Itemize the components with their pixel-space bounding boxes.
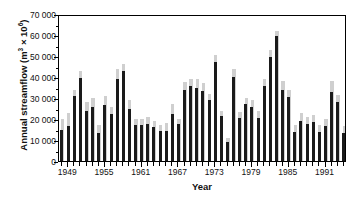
x-tick-mark [147, 162, 148, 166]
y-tick-mark [54, 120, 58, 121]
x-tick-mark [343, 162, 344, 166]
y-tick-label: 20 000 [30, 115, 56, 125]
bar-annual-streamflow [146, 124, 149, 161]
bar-annual-streamflow [269, 57, 272, 161]
bar-annual-streamflow [103, 105, 106, 161]
x-tick-mark [300, 162, 301, 166]
y-tick-mark-minor [56, 47, 59, 48]
bar-annual-streamflow [128, 109, 131, 162]
bar-annual-streamflow [116, 79, 119, 161]
y-tick-label: 50 000 [30, 52, 56, 62]
bar-annual-streamflow [177, 124, 180, 161]
y-tick-mark-minor [56, 89, 59, 90]
bar-annual-streamflow [85, 111, 88, 161]
streamflow-bar-chart: Annual streamflow (m3 × 106) 010 00020 0… [0, 0, 354, 199]
y-tick-mark-minor [56, 152, 59, 153]
bar-annual-streamflow [201, 91, 204, 161]
bar-annual-streamflow [293, 132, 296, 161]
bar-annual-streamflow [244, 104, 247, 161]
bar-annual-streamflow [67, 126, 70, 161]
bar-annual-streamflow [140, 125, 143, 161]
y-tick-mark-minor [56, 26, 59, 27]
x-tick-mark [73, 162, 74, 166]
y-axis-tick-labels: 010 00020 00030 00040 00050 00060 00070 … [14, 0, 56, 199]
bar-annual-streamflow [312, 122, 315, 161]
bar-annual-streamflow [73, 96, 76, 161]
bar-annual-streamflow [60, 130, 63, 162]
bar-annual-streamflow [257, 118, 260, 161]
x-tick-mark [306, 162, 307, 166]
y-tick-mark [54, 141, 58, 142]
bar-annual-streamflow [79, 78, 82, 161]
y-tick-mark-minor [56, 68, 59, 69]
bar-annual-streamflow [110, 114, 113, 161]
bar-annual-streamflow [342, 133, 345, 161]
y-tick-label: 40 000 [30, 73, 56, 83]
y-tick-mark-minor [56, 110, 59, 111]
x-tick-mark [159, 162, 160, 166]
x-tick-label: 1991 [315, 167, 334, 177]
y-tick-label: 60 000 [30, 31, 56, 41]
bar-annual-streamflow [208, 100, 211, 161]
x-tick-mark [184, 162, 185, 166]
x-tick-mark [294, 162, 295, 166]
plot-area [58, 15, 346, 162]
x-tick-mark [165, 162, 166, 166]
x-tick-mark [122, 162, 123, 166]
y-tick-mark [54, 57, 58, 58]
x-tick-mark [337, 162, 338, 166]
bar-annual-streamflow [189, 86, 192, 161]
x-tick-label: 1961 [131, 167, 150, 177]
x-tick-mark [116, 162, 117, 166]
x-tick-mark [276, 162, 277, 166]
bar-annual-streamflow [306, 124, 309, 161]
bar-annual-streamflow [330, 92, 333, 161]
bar-annual-streamflow [299, 121, 302, 161]
bar-annual-streamflow [122, 71, 125, 161]
y-tick-mark [54, 162, 58, 163]
x-tick-mark [257, 162, 258, 166]
x-tick-label: 1955 [94, 167, 113, 177]
bar-annual-streamflow [171, 114, 174, 161]
x-tick-mark [202, 162, 203, 166]
bar-annual-streamflow [250, 107, 253, 161]
bar-annual-streamflow [263, 86, 266, 161]
x-axis-title: Year [58, 181, 346, 192]
x-tick-mark [220, 162, 221, 166]
bar-annual-streamflow [220, 116, 223, 161]
x-tick-mark [239, 162, 240, 166]
y-tick-mark-minor [56, 131, 59, 132]
y-tick-mark [54, 99, 58, 100]
bar-annual-streamflow [281, 90, 284, 161]
bar-annual-streamflow [159, 131, 162, 161]
x-tick-mark [110, 162, 111, 166]
x-tick-mark [135, 162, 136, 166]
x-tick-label: 1949 [58, 167, 77, 177]
bar-annual-streamflow [232, 77, 235, 161]
bar-annual-streamflow [91, 107, 94, 161]
x-tick-mark [79, 162, 80, 166]
x-tick-mark [318, 162, 319, 166]
bar-annual-streamflow [318, 132, 321, 161]
y-tick-label: 70 000 [30, 10, 56, 20]
bar-annual-streamflow [165, 131, 168, 161]
x-tick-label: 1973 [205, 167, 224, 177]
x-tick-mark [86, 162, 87, 166]
x-tick-mark [331, 162, 332, 166]
bar-series-container [59, 16, 345, 161]
y-tick-label: 10 000 [30, 136, 56, 146]
bar-annual-streamflow [238, 118, 241, 161]
x-tick-mark [227, 162, 228, 166]
bar-annual-streamflow [287, 97, 290, 161]
x-tick-mark [61, 162, 62, 166]
x-tick-mark [153, 162, 154, 166]
bar-annual-streamflow [97, 133, 100, 161]
y-tick-mark [54, 78, 58, 79]
x-tick-mark [196, 162, 197, 166]
bar-annual-streamflow [183, 90, 186, 161]
x-tick-mark [128, 162, 129, 166]
bar-annual-streamflow [275, 36, 278, 161]
bar-annual-streamflow [324, 126, 327, 161]
bar-annual-streamflow [195, 88, 198, 162]
x-tick-mark [171, 162, 172, 166]
